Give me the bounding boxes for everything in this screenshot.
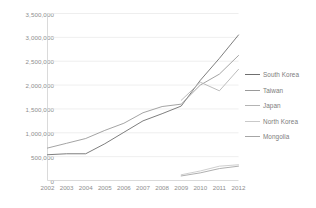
- x-tick-label: 2011: [213, 184, 226, 191]
- legend-line-icon: [245, 90, 260, 91]
- x-tick-label: 2005: [98, 184, 112, 191]
- x-tick-label: 2002: [41, 184, 55, 191]
- legend-line-icon: [245, 121, 260, 122]
- chart-legend: South KoreaTaiwanJapanNorth KoreaMongoli…: [245, 67, 299, 145]
- line-chart: 0500,0001,000,0001,500,0002,000,0002,500…: [0, 0, 316, 208]
- legend-item-label: Mongolia: [263, 133, 289, 140]
- x-tick-label: 2009: [174, 184, 188, 191]
- x-tick-label: 2008: [155, 184, 169, 191]
- x-tick-label: 2003: [60, 184, 74, 191]
- x-tick-label: 2006: [117, 184, 131, 191]
- legend-item-label: Taiwan: [263, 87, 283, 94]
- x-tick-label: 2010: [193, 184, 207, 191]
- x-tick-label: 2012: [232, 184, 246, 191]
- legend-item[interactable]: Mongolia: [245, 129, 299, 145]
- legend-item[interactable]: South Korea: [245, 67, 299, 83]
- legend-item[interactable]: Japan: [245, 98, 299, 114]
- legend-item-label: South Korea: [263, 71, 299, 78]
- legend-item[interactable]: Taiwan: [245, 83, 299, 99]
- x-tick-label: 2004: [79, 184, 93, 191]
- legend-line-icon: [245, 74, 260, 75]
- legend-line-icon: [245, 105, 260, 106]
- legend-item[interactable]: North Korea: [245, 114, 299, 130]
- legend-item-label: Japan: [263, 102, 281, 109]
- x-tick-label: 2007: [136, 184, 150, 191]
- legend-line-icon: [245, 136, 260, 137]
- legend-item-label: North Korea: [263, 118, 298, 125]
